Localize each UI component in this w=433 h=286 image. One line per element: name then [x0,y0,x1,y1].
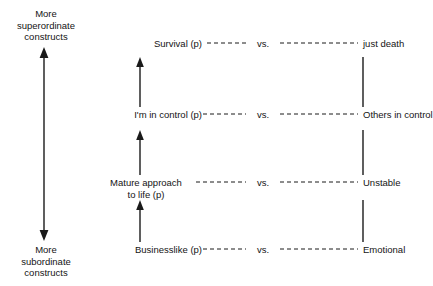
right-pole-just-death: just death [363,38,404,50]
right-pole-others-in-control: Others in control [363,109,433,121]
left-link-mature-to-control [136,130,144,175]
right-pole-unstable: Unstable [363,177,401,189]
left-pole-mature-approach-to-life: Mature approach to life (p) [90,177,202,200]
left-pole-im-in-control: I'm in control (p) [90,109,202,121]
left-link-control-to-survival [136,57,144,107]
right-pole-emotional: Emotional [363,244,405,256]
separator-vs-row-mature-approach: vs. [250,177,276,189]
separator-vs-row-survival: vs. [250,38,276,50]
left-pole-survival: Survival (p) [96,38,202,50]
left-link-businesslike-to-mature [136,200,144,242]
hierarchy-axis-arrow [40,47,49,241]
axis-label-subordinate: More subordinate constructs [0,244,92,279]
left-pole-businesslike: Businesslike (p) [90,244,202,256]
separator-vs-row-control: vs. [250,109,276,121]
axis-label-superordinate: More superordinate constructs [0,8,92,43]
separator-vs-row-businesslike: vs. [250,244,276,256]
